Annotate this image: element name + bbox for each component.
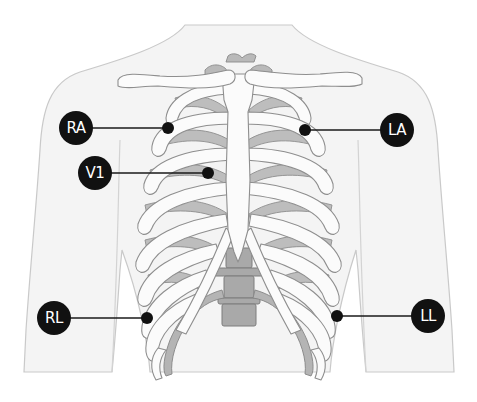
electrode-dot-icon [162, 122, 174, 134]
electrode-dot-icon [202, 167, 214, 179]
electrode-label: V1 [86, 164, 105, 182]
electrode-dot-icon [299, 124, 311, 136]
electrode-label: LA [388, 121, 407, 139]
electrode-dot-icon [141, 312, 153, 324]
electrode-label: RL [45, 309, 64, 327]
ecg-placement-diagram: RAV1LARLLL [0, 0, 477, 402]
electrode-dot-icon [331, 310, 343, 322]
electrode-label: RA [66, 119, 86, 137]
electrode-label: LL [420, 307, 437, 325]
torso-illustration: RAV1LARLLL [0, 0, 477, 402]
